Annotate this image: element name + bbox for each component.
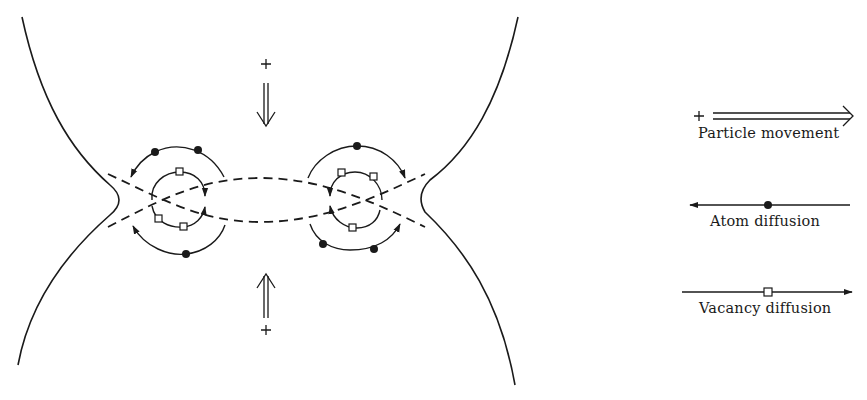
atom-marker	[182, 250, 190, 258]
legend-vacancy-diffusion-symbol	[682, 288, 852, 296]
atom-flow-arc-left-bottom	[133, 225, 225, 254]
particle-boundary-left	[18, 17, 119, 365]
particle-boundary-right	[421, 17, 518, 385]
atom-marker	[319, 240, 327, 248]
vacancy-marker	[180, 223, 187, 230]
particle-arrow-bottom	[257, 274, 275, 335]
legend-label-atom-diffusion: Atom diffusion	[710, 213, 820, 229]
atom-marker	[151, 148, 159, 156]
atom-flow-arc-right-top	[308, 146, 405, 178]
vacancy-flow-arc-left-top	[152, 172, 205, 200]
atom-marker	[353, 142, 361, 150]
vacancy-marker	[349, 224, 356, 231]
legend-atom-diffusion-symbol	[690, 201, 850, 209]
particle-arrow-top	[257, 59, 275, 126]
sintering-diagram	[0, 0, 867, 400]
vacancy-marker	[155, 215, 162, 222]
legend-label-particle-movement: Particle movement	[698, 125, 839, 141]
vacancy-marker	[338, 169, 345, 176]
atom-marker	[370, 245, 378, 253]
legend-particle-movement-symbol	[694, 106, 853, 126]
vacancy-marker	[176, 168, 183, 175]
legend-label-vacancy-diffusion: Vacancy diffusion	[699, 300, 831, 316]
atom-marker	[194, 146, 202, 154]
vacancy-marker	[370, 173, 377, 180]
